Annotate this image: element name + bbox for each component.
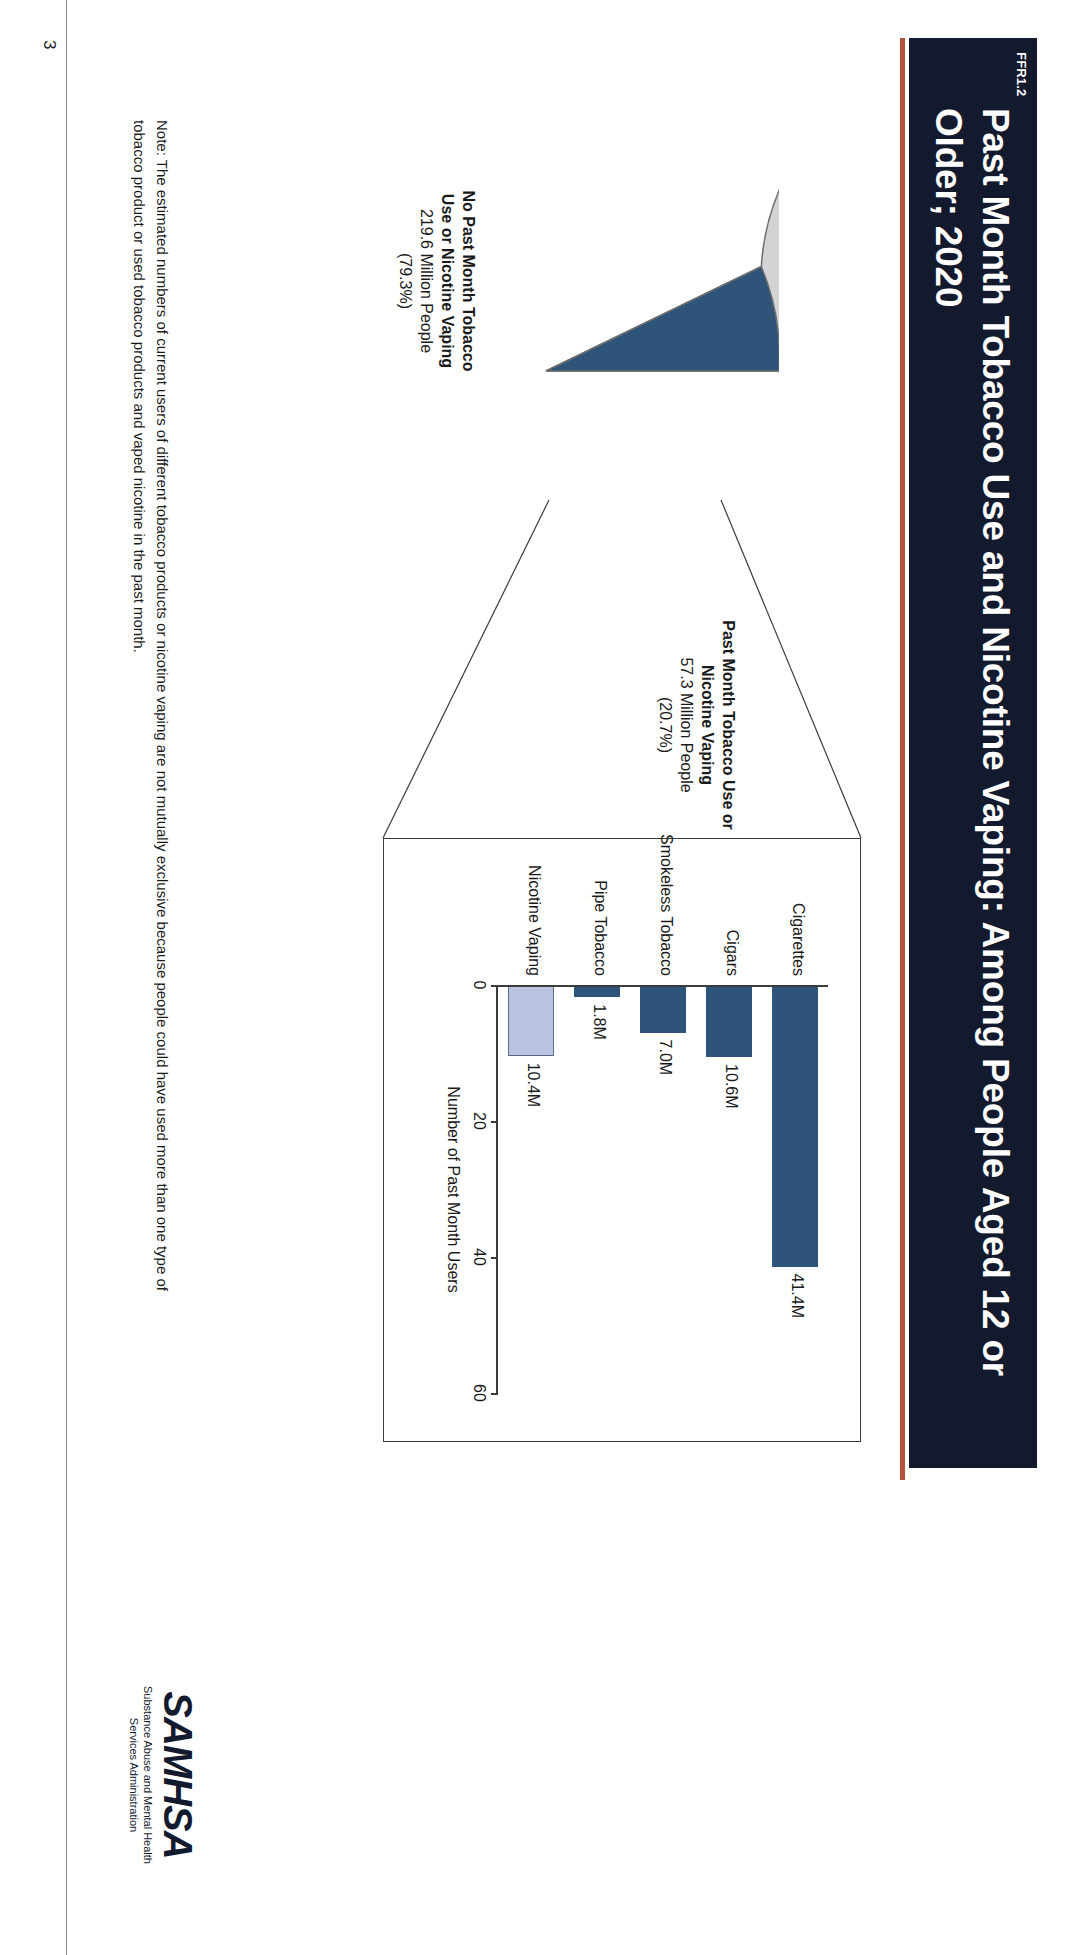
x-axis-tick [491,985,498,987]
samhsa-wordmark: SAMHSA [157,1655,199,1895]
bar-category-label: Smokeless Tobacco [657,834,675,976]
bar-value-label: 1.8M [590,1004,608,1040]
bar-value-label: 41.4M [788,1274,806,1318]
figure-tag: FFR1.2 [1014,52,1029,97]
rotated-page-wrapper: FFR1.2 Past Month Tobacco Use and Nicoti… [0,0,1079,1955]
bar-nicotine-vaping [508,985,554,1056]
x-axis-tick-label: 0 [470,981,488,990]
x-axis-tick [491,1257,498,1259]
x-axis-tick-label: 40 [470,1248,488,1266]
bar-row: Pipe Tobacco1.8M [574,985,620,1393]
bar-chart-panel: Cigarettes41.4MCigars10.6MSmokeless Toba… [383,838,861,1442]
x-axis-title: Number of Past Month Users [444,985,462,1394]
bar-row: Cigars10.6M [706,985,752,1393]
bar-value-label: 10.6M [722,1064,740,1108]
bar-category-label: Cigars [723,930,741,976]
x-axis-tick [491,1121,498,1123]
pie-chart: No Past Month Tobacco Use or Nicotine Va… [313,138,779,604]
bar-category-label: Pipe Tobacco [591,880,609,976]
samhsa-logo: SAMHSA Substance Abuse and Mental Health… [127,1655,199,1895]
bar-category-label: Cigarettes [789,903,807,976]
page-title: Past Month Tobacco Use and Nicotine Vapi… [925,108,1019,1448]
x-axis-line [497,985,499,1394]
banner-accent-rule [900,38,905,1480]
bar-smokeless-tobacco [640,985,686,1033]
title-banner: FFR1.2 Past Month Tobacco Use and Nicoti… [909,38,1037,1468]
footer-rule [66,0,67,1955]
bar-category-label: Nicotine Vaping [525,865,543,976]
x-axis-tick [491,1393,498,1395]
pie-label-no-use: No Past Month Tobacco Use or Nicotine Va… [395,186,479,376]
pie-svg [313,138,779,604]
bar-pipe-tobacco [574,985,620,997]
x-axis-tick-label: 20 [470,1112,488,1130]
x-axis-tick-label: 60 [470,1384,488,1402]
pie-slice-use [546,267,779,371]
page-number: 3 [39,40,59,49]
bar-row: Cigarettes41.4M [772,985,818,1393]
samhsa-logo-subtitle: Substance Abuse and Mental Health Servic… [127,1655,155,1895]
figure-note: Note: The estimated numbers of current u… [128,120,174,1300]
bar-row: Smokeless Tobacco7.0M [640,985,686,1393]
slide: FFR1.2 Past Month Tobacco Use and Nicoti… [0,0,1079,1955]
bar-plot-area: Cigarettes41.4MCigars10.6MSmokeless Toba… [498,985,828,1393]
bar-cigarettes [772,985,818,1267]
figure-area: No Past Month Tobacco Use or Nicotine Va… [229,120,869,1450]
bar-value-label: 10.4M [524,1063,542,1107]
bar-cigars [706,985,752,1057]
y-axis-line [498,985,828,987]
bar-row: Nicotine Vaping10.4M [508,985,554,1393]
bar-value-label: 7.0M [656,1040,674,1076]
pie-label-use: Past Month Tobacco Use or Nicotine Vapin… [655,620,739,830]
